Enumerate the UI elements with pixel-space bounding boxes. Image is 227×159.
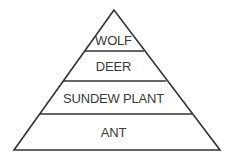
level-label-ant: ANT xyxy=(0,125,227,140)
level-label-wolf: WOLF xyxy=(0,33,227,48)
level-label-sundew-plant: SUNDEW PLANT xyxy=(0,91,227,106)
level-label-deer: DEER xyxy=(0,59,227,74)
